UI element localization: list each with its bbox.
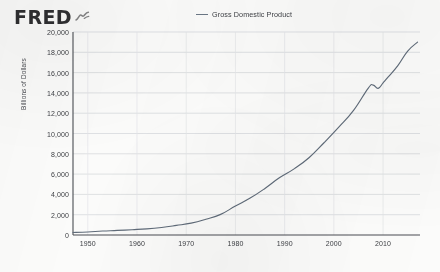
x-axis-tick-label: 1980 <box>227 240 243 247</box>
x-axis-tick-labels: 1950196019701980199020002010 <box>0 0 440 272</box>
x-axis-tick-label: 1960 <box>129 240 145 247</box>
x-axis-tick-label: 2000 <box>326 240 342 247</box>
x-axis-tick-label: 1950 <box>80 240 96 247</box>
x-axis-tick-label: 1990 <box>277 240 293 247</box>
x-axis-tick-label: 1970 <box>178 240 194 247</box>
fred-chart-screenshot: FRED Gross Domestic Product Billions of … <box>0 0 440 272</box>
x-axis-tick-label: 2010 <box>375 240 391 247</box>
